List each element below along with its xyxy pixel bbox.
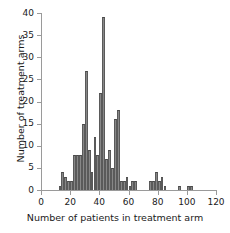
y-tick-label: 0 <box>8 186 34 195</box>
y-tick-mark <box>37 190 41 191</box>
x-tick-label: 100 <box>172 197 202 208</box>
x-tick-label: 0 <box>26 197 56 208</box>
x-tick-mark <box>70 191 71 195</box>
y-tick-mark <box>37 57 41 58</box>
y-tick-mark <box>37 79 41 80</box>
y-axis-line <box>41 13 42 191</box>
y-tick-mark <box>37 35 41 36</box>
y-tick-mark <box>37 146 41 147</box>
x-tick-label: 20 <box>55 197 85 208</box>
x-tick-label: 120 <box>201 197 230 208</box>
y-tick-mark <box>37 13 41 14</box>
x-tick-label: 40 <box>84 197 114 208</box>
x-tick-mark <box>99 191 100 195</box>
histogram-bar <box>117 110 120 190</box>
x-tick-mark <box>41 191 42 195</box>
x-tick-mark <box>187 191 188 195</box>
y-tick-mark <box>37 124 41 125</box>
histogram-figure: 020406080100120 0510152025303540 Number … <box>0 0 230 233</box>
y-tick-mark <box>37 102 41 103</box>
x-tick-label: 60 <box>114 197 144 208</box>
x-axis-title: Number of patients in treatment arm <box>0 212 230 223</box>
x-tick-label: 80 <box>143 197 173 208</box>
y-axis-title: Number of treatment arms <box>15 11 26 187</box>
y-tick-mark <box>37 168 41 169</box>
x-tick-mark <box>216 191 217 195</box>
x-tick-mark <box>129 191 130 195</box>
plot-area <box>41 13 216 190</box>
histogram-bar <box>134 181 137 190</box>
x-tick-mark <box>158 191 159 195</box>
